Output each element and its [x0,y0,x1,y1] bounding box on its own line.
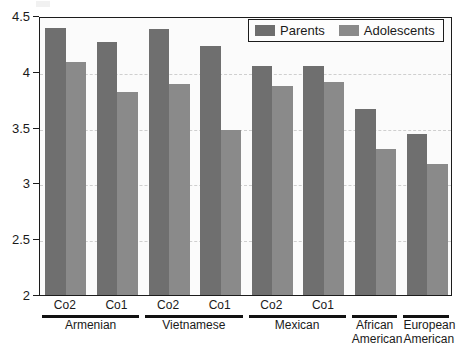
y-tick-label: 4 [23,64,30,81]
y-axis: 22.533.544.5 [0,17,39,296]
group-label: Mexican [249,318,346,332]
group-label: AfricanAmerican [352,318,398,346]
cohort-label: Co2 [148,298,188,313]
bar [221,130,242,295]
y-tick-label: 3.5 [12,120,30,137]
y-tick-label: 2.5 [12,231,30,248]
bar [45,28,66,295]
bars-layer [40,18,451,295]
bar-chart: 22.533.544.5 Parents Adolescents Co2Co1C… [0,0,460,354]
legend: Parents Adolescents [248,19,444,42]
bar [427,164,448,295]
bar [355,109,376,295]
y-tick-label: 2 [23,287,30,304]
bar [252,66,273,295]
x-axis: Co2Co1Co2Co1Co2Co1ArmenianVietnameseMexi… [39,296,452,354]
bar [169,84,190,295]
bar [272,86,293,295]
cohort-label: Co2 [45,298,85,313]
bar [66,62,87,295]
bar [149,29,170,295]
legend-swatch-adolescents [339,25,359,36]
legend-entry-adolescents: Adolescents [339,23,435,38]
legend-swatch-parents [255,25,275,36]
cohort-label: Co1 [96,298,136,313]
cohort-label: Co1 [200,298,240,313]
bar [97,42,118,295]
legend-label-adolescents: Adolescents [364,23,435,38]
bar [200,46,221,295]
group-label: Vietnamese [145,318,242,332]
bar [303,66,324,295]
legend-label-parents: Parents [280,23,325,38]
group-label: Armenian [42,318,139,332]
bar [324,82,345,295]
legend-entry-parents: Parents [255,23,325,38]
y-tick-label: 3 [23,175,30,192]
y-tick-label: 4.5 [12,8,30,25]
cohort-label: Co1 [303,298,343,313]
bar [376,149,397,295]
plot-area [39,17,452,296]
scan-artifact [36,1,50,7]
bar [117,92,138,295]
group-label: EuropeanAmerican [403,318,449,346]
cohort-label: Co2 [251,298,291,313]
bar [407,134,428,295]
